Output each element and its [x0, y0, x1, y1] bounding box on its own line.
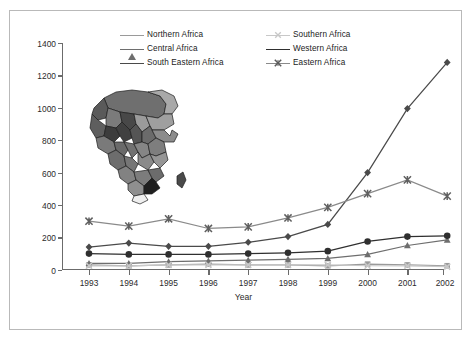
y-tick-label: 1400 [37, 39, 56, 49]
data-point [325, 248, 332, 255]
series-western-africa [86, 232, 451, 257]
x-tick-label: 2002 [436, 278, 455, 288]
x-tick-label: 2000 [358, 278, 377, 288]
data-point [245, 250, 252, 257]
x-tick-label: 1996 [199, 278, 218, 288]
data-point [125, 239, 132, 246]
data-point [86, 244, 93, 251]
y-axis-labels: 1400 1200 1000 800 600 400 200 0 [18, 40, 56, 275]
data-point [285, 233, 292, 240]
data-point [285, 249, 292, 256]
data-point [165, 243, 172, 250]
data-point [324, 204, 331, 212]
data-point [126, 251, 133, 258]
y-tick-label: 400 [42, 201, 56, 211]
y-tick-label: 1000 [37, 104, 56, 114]
x-axis-labels: 1993 1994 1995 1996 1997 1998 1999 2000 … [62, 278, 452, 292]
chart-figure: Northern Africa Southern Africa Central … [0, 0, 473, 340]
legend-item-southern-africa[interactable]: Southern Africa [266, 30, 420, 40]
x-tick-label: 1993 [80, 278, 99, 288]
x-tick-label: 1998 [279, 278, 298, 288]
x-tick-label: 2001 [398, 278, 417, 288]
y-tick-label: 800 [42, 136, 56, 146]
data-point [245, 239, 252, 246]
legend-label: Northern Africa [147, 31, 203, 39]
data-point [205, 251, 212, 258]
series-central-africa [86, 236, 451, 266]
x-tick-label: 1994 [119, 278, 138, 288]
data-point [86, 250, 93, 257]
legend-item-northern-africa[interactable]: Northern Africa [120, 30, 266, 40]
africa-map-svg [86, 84, 196, 206]
legend-label: Southern Africa [293, 31, 350, 39]
data-point [165, 251, 172, 258]
x-light-glyph [274, 31, 282, 39]
y-tick-label: 600 [42, 169, 56, 179]
y-tick-label: 1200 [37, 71, 56, 81]
x-tick-label: 1997 [239, 278, 258, 288]
x-tick-label: 1995 [159, 278, 178, 288]
data-point [205, 243, 212, 250]
x-axis-title: Year [0, 292, 473, 302]
data-point [444, 232, 451, 239]
x-tick-label: 1999 [318, 278, 337, 288]
data-point [364, 190, 371, 198]
data-point [404, 176, 411, 184]
legend-marker-square-icon [120, 30, 144, 40]
x-axis-title-text: Year [235, 292, 252, 302]
data-point [404, 233, 411, 240]
africa-map-inset [86, 84, 196, 206]
y-tick-label: 0 [51, 266, 56, 276]
y-tick-label: 200 [42, 233, 56, 243]
legend-marker-x-light-icon [266, 30, 290, 40]
data-point [364, 238, 371, 245]
